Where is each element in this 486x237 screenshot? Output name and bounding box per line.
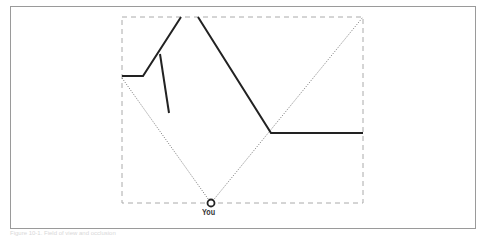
- sight-line-right: [211, 17, 363, 203]
- wall-segment-2: [160, 54, 169, 113]
- wall-segment-1: [122, 17, 181, 76]
- viewer-label: You: [202, 207, 215, 217]
- viewer-marker-icon: [208, 200, 215, 207]
- wall-segment-3: [198, 17, 363, 133]
- figure-caption: Figure 10-1. Field of view and occlusion: [10, 230, 116, 236]
- fov-diagram: [0, 0, 486, 237]
- view-area-box: [122, 17, 363, 203]
